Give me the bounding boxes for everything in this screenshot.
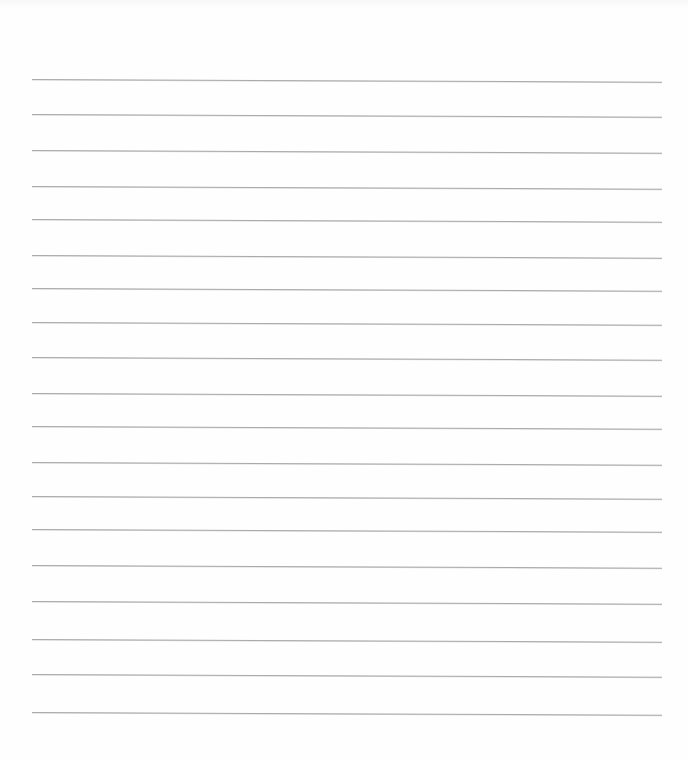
ruled-line [32, 322, 662, 326]
ruled-line [32, 462, 662, 466]
ruled-line [32, 357, 662, 361]
ruled-line [32, 114, 662, 118]
ruled-line [32, 288, 662, 292]
ruled-line [32, 393, 662, 397]
ruled-line [32, 496, 662, 500]
ruled-line [32, 426, 662, 430]
ruled-line [32, 712, 662, 716]
top-edge-bleed-through [0, 0, 688, 8]
ruled-line [32, 150, 662, 154]
ruled-line [32, 219, 662, 223]
ruled-line [32, 255, 662, 259]
ruled-line [32, 79, 662, 83]
ruled-line [32, 186, 662, 190]
ruled-line [32, 565, 662, 569]
ruled-line [32, 674, 662, 678]
ruled-line [32, 529, 662, 533]
ruled-line [32, 639, 662, 643]
lined-paper-sheet [0, 0, 688, 760]
ruled-line [32, 601, 662, 605]
